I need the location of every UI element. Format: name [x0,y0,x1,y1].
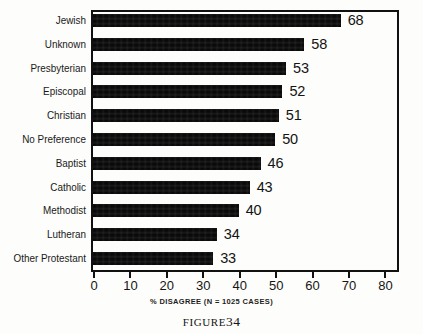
bars-layer: 6858535251504643403433 [93,12,399,270]
bar-row: 51 [93,109,399,122]
bar-row: 52 [93,85,399,98]
bar [93,62,286,75]
bar-value-label: 51 [286,107,302,123]
bar [93,181,250,194]
bar-value-label: 68 [348,12,364,28]
bar-value-label: 53 [293,60,309,76]
category-label: Jewish [12,14,86,27]
bar [93,204,239,217]
category-axis-labels: JewishUnknownPresbyterianEpiscopalChrist… [0,12,86,270]
bar-row: 33 [93,252,399,265]
x-tick-label: 50 [269,278,283,293]
category-label: Presbyterian [12,62,86,75]
figure-caption-word: FIGURE [183,316,226,328]
bar-value-label: 33 [220,250,236,266]
x-tick-label: 30 [196,278,210,293]
category-label: Other Protestant [12,252,86,265]
category-label: Baptist [12,157,86,170]
bar-row: 58 [93,38,399,51]
bar [93,38,304,51]
bar [93,85,282,98]
category-label: Methodist [12,204,86,217]
bar-value-label: 34 [224,226,240,242]
x-tick-label: 0 [90,278,97,293]
x-tick-label: 60 [305,278,319,293]
bar [93,252,213,265]
bar [93,133,275,146]
x-tick-label: 20 [160,278,174,293]
bar [93,109,279,122]
bar-value-label: 50 [282,131,298,147]
category-label: Episcopal [12,85,86,98]
bar [93,157,261,170]
x-tick-label: 70 [342,278,356,293]
x-tick-label: 10 [123,278,137,293]
bar [93,14,341,27]
category-label: Lutheran [12,228,86,241]
bar-row: 46 [93,157,399,170]
category-label: Unknown [12,38,86,51]
figure-caption: FIGURE34 [0,314,423,330]
bar-row: 40 [93,204,399,217]
bar-row: 53 [93,62,399,75]
category-label: No Preference [12,133,86,146]
bar-row: 43 [93,181,399,194]
x-axis-title: % DISAGREE (N = 1025 CASES) [0,297,423,306]
bar-row: 50 [93,133,399,146]
bar-value-label: 58 [311,36,327,52]
x-axis-tick-labels: 01020304050607080 [0,278,423,294]
bar-row: 34 [93,228,399,241]
bar-value-label: 40 [246,202,262,218]
category-label: Christian [12,109,86,122]
bar-row: 68 [93,14,399,27]
bar-value-label: 46 [268,155,284,171]
bar [93,228,217,241]
bar-value-label: 43 [257,179,273,195]
figure-caption-number: 34 [226,314,240,329]
x-tick-label: 80 [378,278,392,293]
x-tick-label: 40 [232,278,246,293]
category-label: Catholic [12,181,86,194]
bar-value-label: 52 [289,83,305,99]
figure-page: JewishUnknownPresbyterianEpiscopalChrist… [0,0,423,334]
